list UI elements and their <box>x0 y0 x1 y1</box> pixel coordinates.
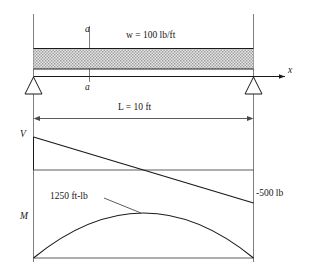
section-label-top: a <box>85 25 90 35</box>
span-dimension-line <box>34 116 254 121</box>
beam-body <box>34 48 254 69</box>
beam-shear-moment-figure: a a w = 100 lb/ft x L = 10 ft V -500 lb … <box>0 0 311 280</box>
shear-end-value-label: -500 lb <box>256 189 283 199</box>
moment-peak-label: 1250 ft-lb <box>50 192 88 202</box>
left-support <box>25 77 42 94</box>
load-label: w = 100 lb/ft <box>126 31 175 41</box>
section-label-bottom: a <box>85 83 90 93</box>
moment-peak-leader <box>104 198 141 213</box>
x-axis-label: x <box>288 66 292 76</box>
right-support <box>245 77 262 94</box>
beam-axis-x <box>34 74 286 79</box>
moment-diagram <box>34 213 254 258</box>
shear-axis-label: V <box>20 130 26 140</box>
moment-axis-label: M <box>20 212 28 222</box>
span-label: L = 10 ft <box>118 103 151 113</box>
figure-canvas <box>0 0 311 280</box>
moment-curve <box>34 213 254 258</box>
